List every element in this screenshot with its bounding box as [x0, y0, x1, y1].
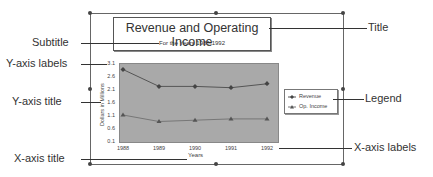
callout-subtitle: Subtitle — [32, 36, 69, 48]
callout-legend: Legend — [365, 92, 402, 104]
legend-item-op-income: Op. Income — [299, 103, 327, 109]
callout-line-title — [269, 28, 367, 29]
callout-line-y-labels — [81, 64, 107, 65]
callout-x-axis-labels: X-axis labels — [354, 141, 416, 153]
legend-item-revenue: Revenue — [299, 93, 321, 99]
chart-legend[interactable]: Revenue Op. Income — [284, 89, 338, 114]
callout-title: Title — [368, 21, 388, 33]
callout-line-y-title — [81, 102, 101, 103]
callout-y-axis-title: Y-axis title — [12, 95, 62, 107]
callout-line-subtitle — [81, 43, 159, 44]
callout-line-legend — [333, 99, 364, 100]
callout-y-axis-labels: Y-axis labels — [6, 57, 67, 69]
callout-x-axis-title: X-axis title — [14, 152, 65, 164]
callout-line-x-labels — [279, 148, 352, 149]
op-income-markers — [121, 113, 270, 124]
callout-line-x-title — [81, 159, 187, 160]
